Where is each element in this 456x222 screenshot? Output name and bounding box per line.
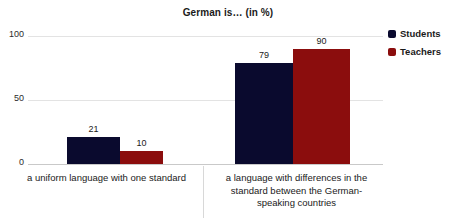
x-axis-label-uniform-language: a uniform language with one standard [14, 172, 199, 185]
bar-students-uniform-language[interactable] [67, 137, 120, 164]
legend-swatch-teachers-icon [388, 48, 396, 56]
legend: Students Teachers [388, 26, 456, 62]
bar-value-students-uniform-language: 21 [67, 124, 120, 134]
x-axis-label-line: a language with differences in the [226, 172, 367, 183]
bar-teachers-language-with-differences[interactable] [293, 49, 350, 164]
axis-baseline [28, 164, 383, 165]
y-axis-tick-50: 50 [0, 93, 24, 103]
category-divider [203, 166, 204, 218]
bar-value-teachers-uniform-language: 10 [120, 138, 163, 148]
x-axis-label-line: standard between the German- [231, 185, 363, 196]
legend-item-teachers[interactable]: Teachers [388, 44, 456, 59]
bar-value-teachers-language-with-differences: 90 [293, 36, 350, 46]
plot-area: 21 10 79 90 [28, 36, 383, 164]
legend-swatch-students-icon [388, 30, 396, 38]
legend-label-students: Students [400, 28, 441, 39]
legend-item-students[interactable]: Students [388, 26, 456, 41]
bar-value-students-language-with-differences: 79 [235, 50, 293, 60]
bar-students-language-with-differences[interactable] [235, 63, 293, 164]
y-axis-tick-100: 100 [0, 29, 24, 39]
y-axis-tick-0: 0 [0, 157, 24, 167]
x-axis-label-language-with-differences: a language with differences in the stand… [205, 172, 388, 210]
x-axis-label-line: speaking countries [257, 197, 336, 208]
legend-label-teachers: Teachers [400, 46, 441, 57]
bar-chart: German is… (in %) 100 50 0 21 10 79 90 a… [0, 0, 456, 222]
bar-teachers-uniform-language[interactable] [120, 151, 163, 164]
chart-title: German is… (in %) [0, 7, 456, 18]
x-axis-label-line: a uniform language with one standard [27, 172, 186, 183]
